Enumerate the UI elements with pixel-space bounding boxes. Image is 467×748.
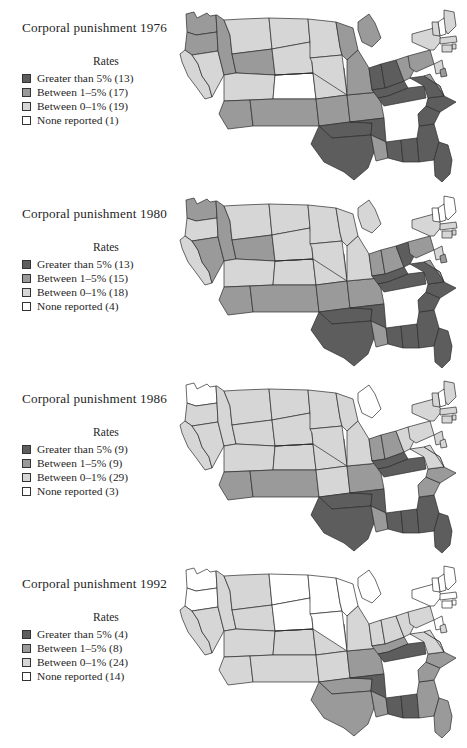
legend-heading: Rates [22,241,172,254]
state-pa [408,606,434,628]
state-nm [250,470,319,497]
legend: Rates Greater than 5% (13) Between 1–5% … [22,55,172,127]
legend: Rates Greater than 5% (9) Between 1–5% (… [22,426,172,498]
state-nm [250,655,319,682]
state-ut [224,629,275,657]
legend-row: Greater than 5% (13) [22,71,172,85]
legend-row: None reported (14) [22,669,172,683]
state-pa [408,50,434,72]
legend-label: Between 1–5% (15) [37,272,128,285]
us-choropleth-map [172,558,466,742]
panel-title: Corporal punishment 1992 [22,576,167,592]
state-nm [250,99,319,126]
state-ms [386,140,403,162]
state-ri [452,44,456,49]
legend-row: None reported (4) [22,299,172,313]
legend-row: Between 1–5% (9) [22,456,172,470]
legend-row: Greater than 5% (13) [22,257,172,271]
legend-label: Greater than 5% (9) [37,443,128,456]
state-de [440,624,447,633]
state-mi [358,385,381,418]
state-az [219,286,253,315]
panel-title: Corporal punishment 1986 [22,391,167,407]
state-al [401,324,419,348]
state-co [273,73,316,99]
state-az [219,100,253,129]
legend-label: Between 0–1% (24) [37,656,128,669]
legend-label: Between 1–5% (9) [37,457,122,470]
state-mi [358,200,381,233]
legend-label: None reported (3) [37,485,119,498]
state-ms [386,511,403,533]
state-ks [316,95,350,126]
legend-row: None reported (3) [22,484,172,498]
legend-swatch-between-0-1 [22,102,31,111]
state-ut [224,73,275,101]
legend-swatch-greater-than-5 [22,74,31,83]
state-az [219,471,253,500]
state-ut [224,444,275,472]
legend-row: Between 1–5% (15) [22,271,172,285]
legend-swatch-greater-than-5 [22,630,31,639]
state-ma [440,407,457,415]
state-de [440,254,447,263]
state-ks [316,281,350,312]
legend-label: Greater than 5% (13) [37,72,133,85]
state-wy [232,605,275,631]
map-panel-1976: Corporal punishment 1976 Rates Greater t… [0,0,467,187]
legend: Rates Greater than 5% (13) Between 1–5% … [22,241,172,313]
legend-label: None reported (4) [37,300,119,313]
state-mi [358,570,381,603]
legend-swatch-between-1-5 [22,88,31,97]
state-ma [440,36,457,44]
legend-row: Between 0–1% (18) [22,285,172,299]
state-ut [224,259,275,287]
state-wa [186,12,217,35]
state-mt [224,18,272,54]
legend-heading: Rates [22,55,172,68]
legend: Rates Greater than 5% (4) Between 1–5% (… [22,611,172,683]
legend-label: Between 0–1% (19) [37,100,128,113]
state-ct [442,601,452,608]
legend-swatch-none-reported [22,116,31,125]
legend-label: Between 1–5% (8) [37,642,122,655]
legend-label: Between 0–1% (29) [37,471,128,484]
state-de [440,68,447,77]
state-ms [386,326,403,348]
state-al [401,138,419,162]
state-wa [186,568,217,591]
panel-title: Corporal punishment 1976 [22,20,167,36]
map-panel-1992: Corporal punishment 1992 Rates Greater t… [0,556,467,743]
state-ct [442,231,452,238]
state-ct [442,416,452,423]
state-wa [186,198,217,221]
legend-row: Between 1–5% (17) [22,85,172,99]
legend-row: Between 0–1% (24) [22,655,172,669]
legend-label: Greater than 5% (13) [37,258,133,271]
state-ri [452,230,456,235]
state-ri [452,600,456,605]
state-wy [232,235,275,261]
state-al [401,694,419,718]
state-pa [408,421,434,443]
legend-heading: Rates [22,426,172,439]
state-mi [358,14,381,47]
legend-row: Greater than 5% (9) [22,442,172,456]
legend-label: None reported (14) [37,670,124,683]
legend-label: Between 1–5% (17) [37,86,128,99]
legend-heading: Rates [22,611,172,624]
legend-row: Between 0–1% (29) [22,470,172,484]
state-nm [250,285,319,312]
state-ks [316,651,350,682]
legend-swatch-none-reported [22,672,31,681]
legend-swatch-between-1-5 [22,459,31,468]
legend-swatch-between-0-1 [22,658,31,667]
us-choropleth-map [172,188,466,372]
map-panel-1986: Corporal punishment 1986 Rates Greater t… [0,371,467,558]
state-ri [452,415,456,420]
state-az [219,656,253,685]
state-ma [440,222,457,230]
state-mt [224,389,272,425]
state-co [273,444,316,470]
state-pa [408,236,434,258]
